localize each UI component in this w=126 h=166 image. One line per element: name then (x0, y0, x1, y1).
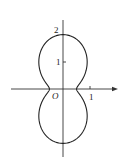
origin-label: O (52, 91, 59, 101)
polar-diagram: 2 1 O 1 (0, 0, 126, 166)
x-label-1: 1 (89, 92, 94, 102)
y-label-2: 2 (54, 25, 59, 35)
x-axis-arrow-icon (112, 87, 118, 91)
y-label-1: 1 (56, 57, 61, 67)
